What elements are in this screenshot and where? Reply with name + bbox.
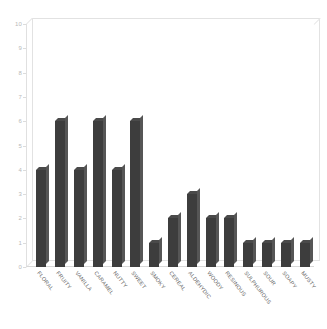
bar bbox=[112, 170, 122, 267]
x-axis-label-slot: SOUR bbox=[258, 268, 277, 328]
x-axis-label-slot: WOODY bbox=[201, 268, 220, 328]
bar bbox=[55, 121, 65, 267]
x-axis-label-slot: FLORAL bbox=[32, 268, 51, 328]
x-axis-label-slot: SWEET bbox=[126, 268, 145, 328]
bar bbox=[93, 121, 103, 267]
bar bbox=[187, 194, 197, 267]
bar-slot bbox=[70, 24, 89, 267]
bar bbox=[149, 243, 159, 267]
bar-slot bbox=[239, 24, 258, 267]
bar-slot bbox=[88, 24, 107, 267]
y-axis-tick-label: 9 bbox=[0, 45, 22, 51]
bar bbox=[281, 243, 291, 267]
x-axis-label-slot: NUTTY bbox=[107, 268, 126, 328]
x-axis-label-slot: RESINOUS bbox=[220, 268, 239, 328]
bar-slot bbox=[295, 24, 314, 267]
y-axis-tick-label: 10 bbox=[0, 21, 22, 27]
x-axis-label-slot: CEREAL bbox=[164, 268, 183, 328]
bar-slot bbox=[201, 24, 220, 267]
x-axis-label-slot: SMOKY bbox=[145, 268, 164, 328]
bar bbox=[74, 170, 84, 267]
y-axis-tick-mark bbox=[23, 146, 26, 147]
y-axis-tick-label: 8 bbox=[0, 70, 22, 76]
y-axis-tick-label: 2 bbox=[0, 215, 22, 221]
bar bbox=[300, 243, 310, 267]
y-axis-tick-mark bbox=[23, 194, 26, 195]
y-axis-tick-label: 7 bbox=[0, 94, 22, 100]
y-axis-tick-label: 4 bbox=[0, 167, 22, 173]
x-axis-label-slot: FRUITY bbox=[51, 268, 70, 328]
y-axis-tick-mark bbox=[23, 73, 26, 74]
x-axis-tick-label: SOUR bbox=[262, 270, 277, 287]
x-axis-label-slot: VANILLA bbox=[70, 268, 89, 328]
y-axis-tick-mark bbox=[23, 97, 26, 98]
y-axis-tick-label: 0 bbox=[0, 264, 22, 270]
bar-slot bbox=[126, 24, 145, 267]
bar bbox=[206, 218, 216, 267]
y-axis-tick-mark bbox=[23, 218, 26, 219]
y-axis-tick-mark bbox=[23, 48, 26, 49]
x-axis-category-labels: FLORALFRUITYVANILLACARAMELNUTTYSWEETSMOK… bbox=[27, 268, 314, 328]
y-axis-tick-label: 3 bbox=[0, 191, 22, 197]
bar bbox=[224, 218, 234, 267]
bar-slot bbox=[258, 24, 277, 267]
x-axis-label-slot: SULPHUROUS bbox=[239, 268, 258, 328]
bar-slot bbox=[32, 24, 51, 267]
bar-series bbox=[27, 24, 314, 267]
bar-slot bbox=[107, 24, 126, 267]
y-axis-tick-mark bbox=[23, 121, 26, 122]
bar-slot bbox=[145, 24, 164, 267]
x-axis-label-slot: SOAPY bbox=[276, 268, 295, 328]
bar-slot bbox=[182, 24, 201, 267]
bar bbox=[36, 170, 46, 267]
bar-slot bbox=[164, 24, 183, 267]
x-axis-label-slot: ALDEHYDIC bbox=[182, 268, 201, 328]
x-axis-label-slot: MUSTY bbox=[295, 268, 314, 328]
y-axis-tick-mark bbox=[23, 24, 26, 25]
bar-chart: 012345678910 FLORALFRUITYVANILLACARAMELN… bbox=[0, 0, 327, 329]
y-axis-tick-mark bbox=[23, 267, 26, 268]
x-axis-label-slot: CARAMEL bbox=[88, 268, 107, 328]
bar bbox=[168, 218, 178, 267]
bar-slot bbox=[220, 24, 239, 267]
bar-slot bbox=[276, 24, 295, 267]
bar-slot bbox=[51, 24, 70, 267]
y-axis-tick-label: 5 bbox=[0, 143, 22, 149]
x-axis-tick-label: MUSTY bbox=[300, 270, 317, 290]
bar bbox=[243, 243, 253, 267]
bar bbox=[262, 243, 272, 267]
y-axis-tick-label: 1 bbox=[0, 240, 22, 246]
plot-area bbox=[27, 24, 314, 267]
y-axis-tick-mark bbox=[23, 243, 26, 244]
y-axis-tick-label: 6 bbox=[0, 118, 22, 124]
bar bbox=[130, 121, 140, 267]
y-axis-tick-mark bbox=[23, 170, 26, 171]
